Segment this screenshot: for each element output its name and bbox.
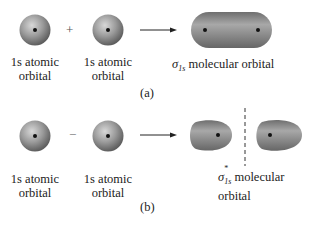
atom2-label-b: 1s atomic orbital — [78, 172, 138, 200]
arrow-icon-a — [140, 28, 177, 33]
atom-orbital-b2 — [93, 121, 124, 152]
arrow-icon-b — [140, 133, 177, 138]
label-line: orbital — [5, 186, 65, 200]
atom-orbital-b1 — [20, 121, 51, 152]
label-text: molecular orbital — [185, 57, 274, 71]
label-line: 1s atomic — [78, 55, 138, 69]
atom1-label-b: 1s atomic orbital — [5, 172, 65, 200]
label-line: 1s atomic — [5, 172, 65, 186]
atom1-label-a: 1s atomic orbital — [5, 55, 65, 83]
caption-b: (b) — [140, 200, 155, 214]
subscript: 1s — [224, 177, 231, 186]
minus-operator: − — [69, 127, 76, 143]
sigma-antibonding-orbital — [190, 108, 302, 166]
atom-orbital-a2 — [93, 15, 124, 46]
label-line: orbital — [78, 186, 138, 200]
caption-a: (a) — [140, 86, 154, 100]
atom2-label-a: 1s atomic orbital — [78, 55, 138, 83]
label-line: 1s atomic — [78, 172, 138, 186]
sigma-bonding-orbital — [191, 12, 272, 48]
superscript: * — [224, 162, 228, 176]
label-line: orbital — [78, 69, 138, 83]
label-line: 1s atomic — [5, 55, 65, 69]
atom-orbital-a1 — [20, 15, 51, 46]
sigma-star-label: σ*1s molecular orbital — [218, 170, 313, 203]
label-line: orbital — [5, 69, 65, 83]
sigma-label: σ1s molecular orbital — [172, 57, 312, 76]
plus-operator: + — [66, 22, 73, 38]
